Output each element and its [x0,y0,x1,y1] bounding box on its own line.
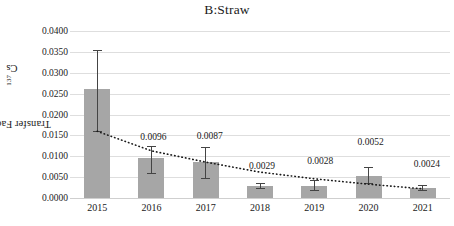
error-bar-cap-upper [364,167,373,168]
error-bar-cap-lower [310,190,319,191]
error-bar-cap-lower [147,173,156,174]
y-axis-tick-labels: 0.00000.00500.01000.01500.02000.02500.03… [18,31,68,198]
y-axis-tick-label: 0.0100 [24,151,68,161]
data-label: 0.0028 [307,156,333,166]
data-label: 0.0096 [140,132,166,142]
data-label: 0.0087 [197,131,223,141]
error-bar-line [368,167,369,183]
gridline [70,115,450,116]
gridline [70,198,450,199]
y-axis-tick-label: 0.0050 [24,172,68,182]
gridline [70,73,450,74]
y-axis-tick-label: 0.0350 [24,47,68,57]
error-bar-cap-upper [418,185,427,186]
error-bar-cap-upper [310,180,319,181]
error-bar-cap-lower [201,178,210,179]
x-axis-tick-label: 2017 [196,202,216,213]
data-label: 0.0052 [358,137,384,147]
y-axis-title-suffix: Cs [6,63,17,74]
x-axis-tick-label: 2018 [250,202,270,213]
y-axis-tick-label: 0.0400 [24,26,68,36]
error-bar-line [314,180,315,189]
gridline [70,31,450,32]
x-axis-tick-label: 2020 [359,202,379,213]
error-bar-cap-lower [418,190,427,191]
error-bar-line [97,50,98,131]
x-axis-tick-label: 2015 [87,202,107,213]
error-bar-cap-upper [93,50,102,51]
gridline [70,52,450,53]
data-label: 0.0262 [84,0,110,2]
error-bar-cap-upper [201,147,210,148]
plot-area: 0.02620.00960.00870.00290.00280.00520.00… [70,31,450,198]
x-axis-tick-label: 2021 [413,202,433,213]
error-bar-cap-lower [93,131,102,132]
gridline [70,135,450,136]
error-bar-cap-lower [364,183,373,184]
y-axis-tick-label: 0.0150 [24,130,68,140]
data-label: 0.0029 [249,161,275,171]
gridline [70,94,450,95]
error-bar-line [151,146,152,174]
error-bar-cap-upper [256,183,265,184]
gridline [70,177,450,178]
gridline [70,156,450,157]
y-axis-title-superscript: 137 [5,74,13,85]
error-bar-line [205,147,206,178]
chart-title: B:Straw [0,2,454,18]
y-axis-tick-label: 0.0000 [24,193,68,203]
x-axis-tick-label: 2016 [141,202,161,213]
x-axis-tick-label: 2019 [304,202,324,213]
error-bar-cap-lower [256,188,265,189]
x-axis-tick-labels: 2015201620172018201920202021 [70,201,450,223]
data-label: 0.0024 [414,159,440,169]
error-bar-cap-upper [147,146,156,147]
y-axis-tick-label: 0.0250 [24,89,68,99]
chart-container: B:Straw Transfer Factor of 137Cs 0.00000… [0,0,454,226]
y-axis-tick-label: 0.0300 [24,68,68,78]
y-axis-tick-label: 0.0200 [24,110,68,120]
